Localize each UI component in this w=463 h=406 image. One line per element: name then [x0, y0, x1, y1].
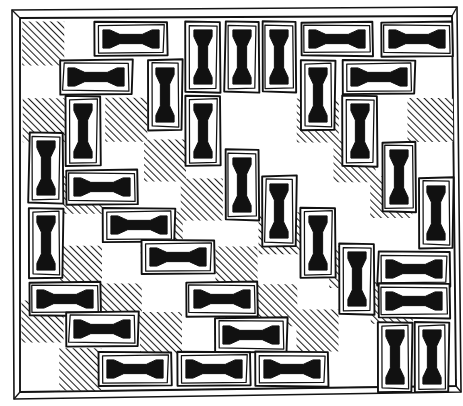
domino-tile[interactable]	[215, 317, 288, 352]
checkerboard-dark-square	[297, 310, 339, 352]
domino-tile[interactable]	[103, 208, 176, 242]
domino-tile[interactable]	[177, 352, 250, 386]
domino-tile[interactable]	[300, 208, 335, 278]
domino-tile[interactable]	[342, 96, 377, 167]
domino-tile[interactable]	[224, 21, 259, 92]
domino-tile[interactable]	[29, 282, 101, 317]
domino-tile[interactable]	[382, 142, 416, 213]
checkerboard-dark-square	[59, 348, 101, 390]
checkerboard-dark-square	[181, 179, 223, 221]
domino-tile[interactable]	[263, 21, 297, 92]
checkerboard-dark-square	[144, 140, 186, 182]
domino-tile[interactable]	[419, 177, 454, 248]
domino-tile[interactable]	[301, 60, 336, 130]
domino-tiling-figure	[0, 0, 463, 406]
domino-tile[interactable]	[255, 352, 328, 387]
domino-tile[interactable]	[379, 283, 451, 318]
domino-tile[interactable]	[381, 22, 453, 57]
figure-canvas	[0, 0, 463, 406]
domino-tile[interactable]	[226, 149, 260, 220]
domino-tile[interactable]	[378, 322, 413, 392]
domino-tile[interactable]	[185, 22, 220, 93]
domino-tile[interactable]	[186, 282, 258, 317]
checkerboard-dark-square	[105, 98, 147, 142]
domino-tile[interactable]	[99, 352, 172, 386]
domino-tile[interactable]	[343, 60, 416, 94]
domino-tile[interactable]	[339, 244, 374, 315]
checkerboard-dark-square	[408, 98, 454, 142]
domino-tile[interactable]	[185, 96, 220, 166]
domino-tile[interactable]	[301, 22, 373, 57]
domino-tile[interactable]	[66, 96, 101, 166]
domino-tile[interactable]	[142, 240, 215, 274]
domino-tile[interactable]	[28, 132, 63, 203]
domino-tile[interactable]	[29, 208, 64, 278]
domino-tile[interactable]	[262, 175, 297, 246]
domino-tile[interactable]	[66, 311, 139, 346]
checkerboard-dark-square	[22, 22, 64, 66]
domino-tile[interactable]	[148, 59, 183, 130]
domino-tile[interactable]	[377, 251, 450, 286]
domino-tile[interactable]	[60, 59, 133, 94]
domino-tile[interactable]	[66, 170, 138, 205]
domino-tile[interactable]	[94, 22, 167, 56]
domino-tile[interactable]	[415, 322, 450, 392]
checkerboard-dark-square	[140, 312, 182, 354]
